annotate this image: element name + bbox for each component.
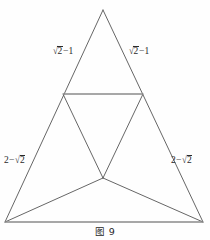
trailing-term: 1 bbox=[145, 46, 150, 56]
outer-right-side bbox=[103, 10, 203, 222]
figure-diagram: √2−1 √2−1 2−√2 2−√2 图 9 bbox=[0, 0, 210, 240]
radicand: 2 bbox=[133, 46, 139, 57]
radicand: 2 bbox=[187, 155, 193, 166]
radical-expression: √2 bbox=[182, 155, 193, 166]
center-to-bottom-left bbox=[5, 178, 103, 222]
radicand: 2 bbox=[20, 155, 26, 166]
triangle-diagram-canvas bbox=[0, 0, 210, 240]
radical-expression: √2 bbox=[15, 155, 26, 166]
chord-right-to-center bbox=[103, 94, 143, 178]
bottom-right-edge-length-label: 2−√2 bbox=[171, 155, 192, 166]
radical-expression: √2 bbox=[128, 46, 139, 57]
figure-caption: 图 9 bbox=[0, 224, 210, 238]
radical-expression: √2 bbox=[52, 46, 63, 57]
trailing-term: 1 bbox=[69, 46, 74, 56]
top-right-edge-length-label: √2−1 bbox=[128, 46, 149, 57]
bottom-left-edge-length-label: 2−√2 bbox=[4, 155, 25, 166]
center-to-bottom-right bbox=[103, 178, 203, 222]
top-left-edge-length-label: √2−1 bbox=[52, 46, 73, 57]
outer-left-side bbox=[5, 10, 103, 222]
chord-left-to-center bbox=[63, 94, 103, 178]
radicand: 2 bbox=[57, 46, 63, 57]
